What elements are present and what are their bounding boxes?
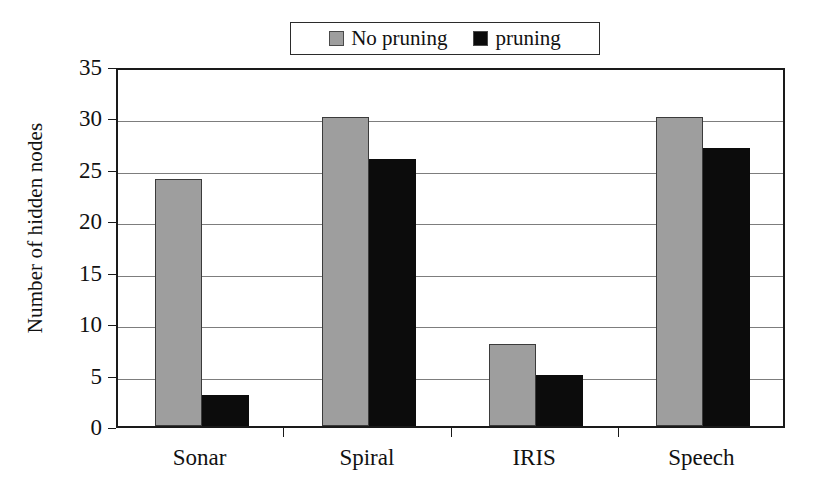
bar-speech-no-pruning [656, 117, 703, 426]
x-axis-label-sonar: Sonar [116, 445, 283, 470]
y-tick-30 [108, 119, 116, 120]
bar-speech-pruning [703, 148, 750, 426]
x-tick-2 [451, 428, 452, 437]
y-tick-0 [108, 428, 116, 429]
x-axis-label-speech: Speech [618, 445, 785, 470]
bar-iris-pruning [536, 375, 583, 426]
legend-label-pruning: pruning [495, 28, 560, 49]
plot-area [116, 68, 785, 428]
bar-iris-no-pruning [489, 344, 536, 426]
x-tick-3 [618, 428, 619, 437]
plot-inner [118, 70, 783, 426]
chart-legend: No pruning pruning [290, 22, 600, 55]
y-tick-label-10: 10 [48, 313, 102, 336]
x-tick-1 [283, 428, 284, 437]
bar-sonar-pruning [202, 395, 249, 426]
y-tick-label-30: 30 [48, 107, 102, 130]
bar-spiral-pruning [369, 159, 416, 426]
legend-swatch-no-pruning-icon [329, 31, 344, 46]
y-tick-10 [108, 325, 116, 326]
y-tick-25 [108, 171, 116, 172]
y-tick-label-25: 25 [48, 159, 102, 182]
legend-swatch-pruning-icon [473, 31, 488, 46]
y-tick-label-15: 15 [48, 262, 102, 285]
y-tick-5 [108, 377, 116, 378]
y-tick-15 [108, 274, 116, 275]
bar-chart-figure: No pruning pruning Number of hidden node… [0, 0, 816, 500]
y-tick-label-35: 35 [48, 56, 102, 79]
legend-entry-pruning: pruning [473, 28, 560, 49]
legend-entry-no-pruning: No pruning [329, 28, 447, 49]
y-axis-title: Number of hidden nodes [18, 38, 52, 418]
y-tick-label-0: 0 [48, 416, 102, 439]
y-tick-label-5: 5 [48, 365, 102, 388]
x-axis-label-iris: IRIS [451, 445, 618, 470]
y-tick-35 [108, 68, 116, 69]
bar-sonar-no-pruning [155, 179, 202, 426]
legend-label-no-pruning: No pruning [351, 28, 447, 49]
bar-spiral-no-pruning [322, 117, 369, 426]
y-tick-20 [108, 222, 116, 223]
x-axis-label-spiral: Spiral [283, 445, 450, 470]
y-tick-label-20: 20 [48, 210, 102, 233]
